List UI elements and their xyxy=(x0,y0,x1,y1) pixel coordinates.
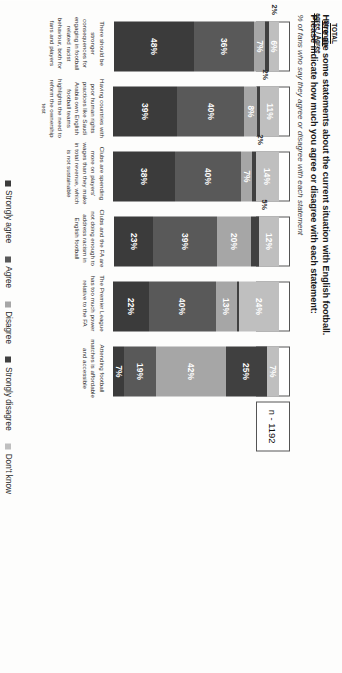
category-label: Attending football matches is affordable… xyxy=(57,337,109,399)
bar-segment[interactable]: 13% xyxy=(216,281,238,331)
stacked-bar[interactable]: 24%13%40%22% xyxy=(113,281,279,331)
page-title: Here are some statements about the curre… xyxy=(308,14,332,661)
stacked-bar[interactable]: 11%8%40%39% xyxy=(113,86,279,136)
bar-segment[interactable]: 7% xyxy=(267,346,279,396)
legend-label: Disagree xyxy=(4,311,13,344)
legend-item[interactable]: Strongly agree xyxy=(4,180,13,243)
bar-segment[interactable]: 19% xyxy=(124,346,156,396)
stacked-bar-chart: 85%2%6%7%36%48%There should be stronger … xyxy=(57,14,290,661)
category-label: Clubs and the FA are not doing enough to… xyxy=(57,207,109,269)
bar-segment[interactable]: 39% xyxy=(153,216,218,266)
legend-item[interactable]: Strongly disagree xyxy=(4,356,13,430)
legend-label: Strongly disagree xyxy=(4,366,13,430)
bar-segment[interactable]: 39% xyxy=(113,86,178,136)
bar-segment[interactable]: 22% xyxy=(113,281,150,331)
page-title-line-2: Please indicate how much you agree or di… xyxy=(309,14,319,313)
bar-segment[interactable]: 20% xyxy=(217,216,250,266)
legend-item[interactable]: Disagree xyxy=(4,301,13,344)
bar-segment[interactable]: 48% xyxy=(114,21,194,71)
legend-swatch-icon xyxy=(6,356,12,362)
base-size-box: n - 1192 xyxy=(256,401,290,451)
legend-label: Don't know xyxy=(4,453,13,493)
bar-segment[interactable]: 11% xyxy=(260,86,278,136)
bar-segment[interactable]: 36% xyxy=(194,21,254,71)
bar-segment-outside-label: 2% xyxy=(261,69,270,79)
chart-column: 63%5%12%20%39%23%Clubs and the FA are no… xyxy=(57,213,290,269)
bar-segment[interactable]: 6% xyxy=(269,21,279,71)
chart-column: 85%2%6%7%36%48%There should be stronger … xyxy=(57,18,290,74)
chart-column: 26%7%25%42%19%7%Attending football match… xyxy=(57,343,290,399)
total-header-line-2: agree / Agree xyxy=(315,13,322,53)
bar-segment[interactable]: 8% xyxy=(244,86,257,136)
category-label: There should be stronger consequences fo… xyxy=(57,12,109,74)
bar-segment[interactable]: 7% xyxy=(254,21,266,71)
stacked-bar[interactable]: 6%7%36%48% xyxy=(113,21,279,71)
chart-column: 62%24%13%40%22%The Premier League has to… xyxy=(57,278,290,334)
bar-segment[interactable] xyxy=(252,151,255,201)
page-subtitle: % of fans who say they agree or disagree… xyxy=(296,14,305,661)
total-header-line-1: TOTAL Strongly xyxy=(323,20,338,46)
bar-segment[interactable]: 40% xyxy=(175,151,241,201)
bar-segment[interactable]: 38% xyxy=(113,151,175,201)
bar-segment[interactable]: 12% xyxy=(259,216,279,266)
bar-segment[interactable]: 7% xyxy=(241,151,253,201)
bar-segment[interactable] xyxy=(265,21,268,71)
base-size-label: n - 1192 xyxy=(268,409,279,443)
total-column-header: TOTAL Strongly agree / Agree xyxy=(314,11,338,55)
legend-item[interactable]: Agree xyxy=(4,256,13,288)
bar-segment[interactable]: 42% xyxy=(156,346,226,396)
legend-item[interactable]: Don't know xyxy=(4,443,13,493)
legend-label: Agree xyxy=(4,266,13,288)
bar-segment-outside-label: 2% xyxy=(256,134,265,144)
page-title-line-1: Here are some statements about the curre… xyxy=(321,14,331,335)
category-label: Having countries with poor human rights … xyxy=(57,77,109,139)
bar-segment[interactable]: 23% xyxy=(114,216,152,266)
bar-segment-outside-label: 2% xyxy=(270,4,279,14)
chart-legend: Strongly agreeAgreeDisagreeStrongly disa… xyxy=(4,0,13,673)
bar-segment[interactable] xyxy=(257,86,260,136)
chart-column: 77%2%14%7%40%38%Clubs are spending more … xyxy=(57,148,290,204)
category-label: Clubs are spending more on players' wage… xyxy=(57,142,109,204)
bar-segment[interactable]: 40% xyxy=(149,281,215,331)
bar-segment[interactable] xyxy=(251,216,259,266)
legend-label: Strongly agree xyxy=(4,190,13,243)
stacked-bar[interactable]: 14%7%40%38% xyxy=(113,151,279,201)
stacked-bar[interactable]: 7%25%42%19%7% xyxy=(113,346,279,396)
bar-segment-outside-label: 5% xyxy=(260,199,269,209)
slide-sheet: Here are some statements about the curre… xyxy=(0,0,342,673)
chart-column: 79%2%11%8%40%39%Having countries with po… xyxy=(57,83,290,139)
category-label: The Premier League has too much power re… xyxy=(57,272,109,334)
bar-segment[interactable]: 24% xyxy=(239,281,279,331)
bar-segment[interactable]: 7% xyxy=(113,346,125,396)
legend-swatch-icon xyxy=(6,180,12,186)
legend-swatch-icon xyxy=(6,443,12,449)
bar-segment[interactable]: 40% xyxy=(178,86,244,136)
bar-segment[interactable]: 25% xyxy=(226,346,268,396)
bar-segment[interactable] xyxy=(237,281,239,331)
bar-segment[interactable]: 14% xyxy=(256,151,279,201)
rotated-slide-canvas: Here are some statements about the curre… xyxy=(0,0,342,673)
legend-swatch-icon xyxy=(6,256,12,262)
legend-swatch-icon xyxy=(6,301,12,307)
stacked-bar[interactable]: 12%20%39%23% xyxy=(113,216,279,266)
